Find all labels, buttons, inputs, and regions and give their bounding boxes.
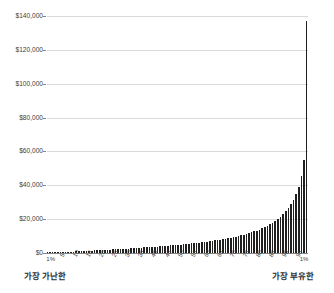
x-tick-label: 40 xyxy=(150,249,159,258)
y-tick-mark xyxy=(43,118,46,119)
y-tick-label: $140,000 xyxy=(0,13,43,20)
x-tick-label: 75 xyxy=(242,249,251,258)
x-tick-label: 90 xyxy=(281,249,290,258)
x-tick-label: 35 xyxy=(137,249,146,258)
x-tick-label: 1% xyxy=(300,256,309,262)
y-tick-label: $40,000 xyxy=(0,182,43,189)
x-tick-label: 60 xyxy=(203,249,212,258)
y-tick-mark xyxy=(43,50,46,51)
y-tick-label: $20,000 xyxy=(0,216,43,223)
x-tick-label: 65 xyxy=(216,249,225,258)
y-tick-mark xyxy=(43,84,46,85)
y-tick-label: $80,000 xyxy=(0,115,43,122)
x-tick-label: 1% xyxy=(46,256,55,262)
caption-richest: 가장 부유한 xyxy=(272,269,314,281)
y-tick-mark xyxy=(43,16,46,17)
x-tick-label: 10 xyxy=(72,249,81,258)
y-tick-mark xyxy=(43,185,46,186)
x-tick-label: 55 xyxy=(190,249,199,258)
x-tick-label: 70 xyxy=(229,249,238,258)
x-tick-label: 25 xyxy=(111,249,120,258)
y-tick-label: $100,000 xyxy=(0,81,43,88)
y-tick-mark xyxy=(43,219,46,220)
y-tick-label: $60,000 xyxy=(0,148,43,155)
y-tick-label: $0 xyxy=(0,250,43,257)
y-tick-mark xyxy=(43,151,46,152)
x-tick-label: 85 xyxy=(268,249,277,258)
x-tick-label: 30 xyxy=(124,249,133,258)
x-axis-labels: 1%51015202530354045505560657075808590951… xyxy=(46,254,308,272)
x-tick-label: 15 xyxy=(85,249,94,258)
caption-poorest: 가장 가난한 xyxy=(24,269,66,281)
x-tick-label: 80 xyxy=(255,249,264,258)
y-tick-label: $120,000 xyxy=(0,47,43,54)
x-tick-label: 20 xyxy=(98,249,107,258)
income-distribution-chart: $140,000 $120,000 $100,000 $80,000 $60,0… xyxy=(0,0,334,293)
